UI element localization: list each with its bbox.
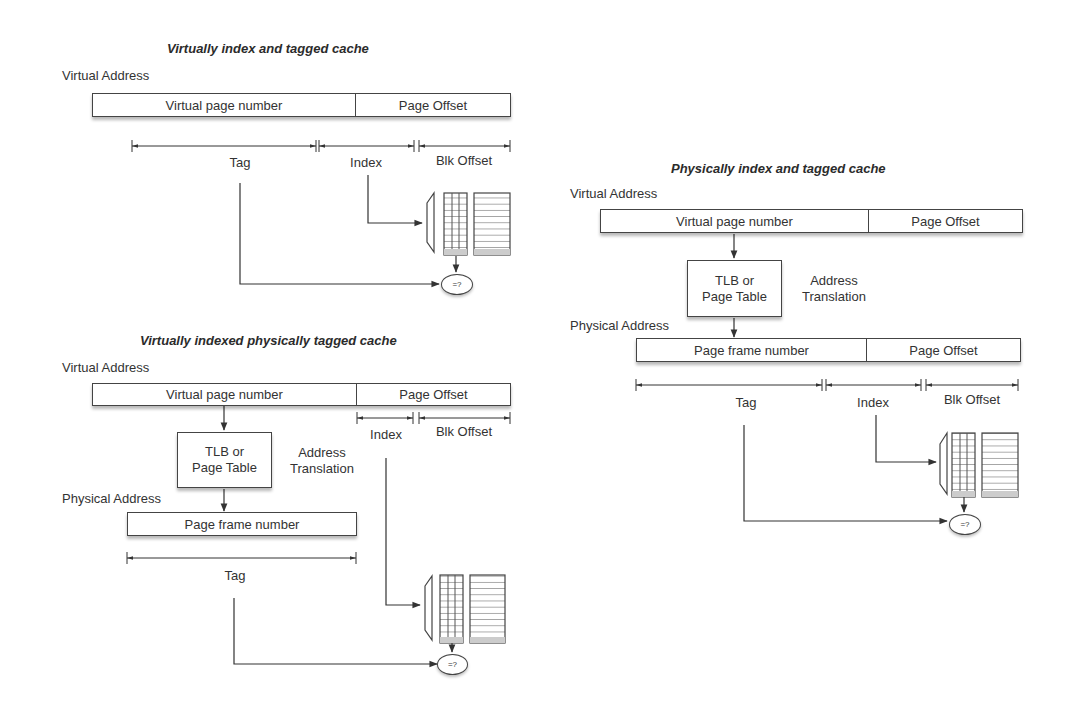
translation-line-2: Translation — [290, 461, 354, 477]
vipt-physical-address-box: Page frame number — [127, 512, 357, 536]
tag-array — [952, 433, 975, 497]
page-frame-number-field: Page frame number — [637, 339, 867, 361]
pipt-physical-address-label: Physical Address — [570, 319, 669, 332]
translation-line-1: Address — [802, 273, 866, 289]
translation-line-2: Translation — [802, 289, 866, 305]
pipt-cache — [940, 433, 1018, 497]
pipt-index-label: Index — [857, 396, 889, 409]
page-offset-field: Page Offset — [867, 339, 1020, 361]
vivt-dimension-lines — [132, 140, 510, 152]
tag-array — [440, 575, 463, 643]
page-offset-field: Page Offset — [356, 94, 510, 116]
virtual-page-number-field: Virtual page number — [93, 384, 357, 405]
pipt-blk-offset-label: Blk Offset — [944, 393, 1000, 406]
tag-array — [444, 193, 467, 255]
pipt-physical-address-box: Page frame number Page Offset — [636, 338, 1021, 362]
pipt-virtual-address-label: Virtual Address — [570, 187, 657, 200]
pipt-address-translation-label: Address Translation — [802, 273, 866, 305]
pipt-tag-label: Tag — [736, 396, 757, 409]
data-array — [474, 193, 510, 255]
vipt-cache — [425, 575, 505, 643]
pipt-dimension-lines — [636, 379, 1018, 391]
vipt-comparator: =? — [437, 654, 468, 675]
pipt-title: Physically index and tagged cache — [671, 162, 886, 175]
vipt-virtual-address-box: Virtual page number Page Offset — [92, 383, 511, 406]
vivt-tag-label: Tag — [230, 156, 251, 169]
virtual-page-number-field: Virtual page number — [601, 210, 869, 232]
vivt-cache — [427, 193, 510, 255]
data-array — [982, 433, 1018, 497]
tlb-line-2: Page Table — [192, 460, 257, 476]
page-offset-field: Page Offset — [357, 384, 510, 405]
vivt-blk-offset-label: Blk Offset — [436, 154, 492, 167]
vivt-virtual-address-box: Virtual page number Page Offset — [92, 93, 511, 117]
vivt-index-label: Index — [350, 156, 382, 169]
vivt-title: Virtually index and tagged cache — [167, 42, 369, 55]
tlb-line-1: TLB or — [715, 273, 754, 289]
vipt-physical-address-label: Physical Address — [62, 492, 161, 505]
translation-line-1: Address — [290, 445, 354, 461]
pipt-comparator: =? — [949, 514, 981, 535]
mux-icon — [425, 576, 432, 640]
vipt-address-translation-label: Address Translation — [290, 445, 354, 477]
vipt-blk-offset-label: Blk Offset — [436, 425, 492, 438]
mux-icon — [427, 193, 434, 252]
virtual-page-number-field: Virtual page number — [93, 94, 356, 116]
vivt-comparator: =? — [441, 274, 473, 295]
page-offset-field: Page Offset — [869, 210, 1022, 232]
data-array — [470, 575, 505, 643]
page-frame-number-field: Page frame number — [128, 513, 356, 535]
vipt-title: Virtually indexed physically tagged cach… — [140, 334, 397, 347]
tlb-line-1: TLB or — [205, 444, 244, 460]
pipt-tlb-box: TLB or Page Table — [687, 260, 782, 317]
mux-icon — [940, 433, 947, 494]
vipt-index-label: Index — [370, 428, 402, 441]
vivt-virtual-address-label: Virtual Address — [62, 69, 149, 82]
vipt-virtual-address-label: Virtual Address — [62, 361, 149, 374]
vipt-tag-label: Tag — [225, 569, 246, 582]
pipt-virtual-address-box: Virtual page number Page Offset — [600, 209, 1023, 233]
vivt-wires — [240, 175, 456, 284]
tlb-line-2: Page Table — [702, 289, 767, 305]
vipt-tlb-box: TLB or Page Table — [177, 432, 272, 488]
